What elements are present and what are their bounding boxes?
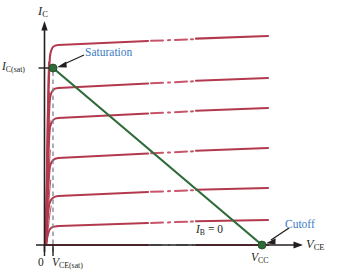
curve-6-solid-right	[196, 36, 268, 39]
curve-4-solid-right	[196, 108, 268, 111]
saturation-annotation: Saturation	[85, 47, 132, 59]
saturation-arrowhead	[57, 61, 67, 67]
ib-zero-annotation: IB = 0	[196, 224, 223, 236]
x-axis-label-sub: CE	[314, 242, 325, 252]
ib-zero-rest: = 0	[205, 223, 223, 235]
curve-2-solid-left	[46, 192, 148, 245]
cutoff-annotation: Cutoff	[285, 219, 315, 231]
curve-1-solid-left	[46, 223, 148, 245]
curve-1-break-dashes	[151, 222, 193, 223]
collector-curves-group	[46, 36, 268, 245]
vcesat-sub: CE(sat)	[59, 261, 83, 270]
cutoff-point-marker	[258, 241, 266, 249]
vcc-tick-label: VCC	[251, 252, 268, 264]
transistor-characteristic-curve-figure: IC VCE IC(sat) 0 VCE(sat) VCC Saturation…	[0, 0, 341, 277]
curve-3-solid-left	[46, 154, 148, 246]
curve-5-break-dashes	[151, 81, 193, 83]
origin-label: 0	[38, 257, 44, 269]
curve-6-highest-ib	[46, 36, 268, 245]
x-axis-label: VCE	[306, 238, 325, 251]
curve-6-break-dashes	[151, 39, 193, 41]
curve-1-lowest-ib	[46, 220, 268, 245]
vcc-sub: CC	[258, 256, 268, 265]
curve-2-break-dashes	[151, 190, 193, 192]
curve-2-solid-right	[196, 188, 268, 190]
x-axis-label-main: V	[306, 237, 314, 251]
y-axis-label: IC	[38, 5, 48, 18]
curve-5-solid-right	[196, 78, 268, 81]
x-axis-arrowhead	[294, 242, 304, 249]
vcesat-main: V	[52, 256, 59, 268]
saturation-point-marker	[49, 64, 57, 72]
characteristic-curves-svg	[0, 0, 341, 277]
curve-3-break-dashes	[151, 151, 193, 153]
y-axis-arrowhead	[41, 21, 47, 31]
y-axis-label-sub: C	[42, 9, 48, 19]
ic-sat-tick-label: IC(sat)	[2, 61, 25, 73]
ib-zero-sub: B	[200, 228, 205, 237]
vcesat-tick-label: VCE(sat)	[52, 257, 83, 269]
curve-2	[46, 188, 268, 245]
curve-6-solid-left	[46, 41, 148, 245]
annotation-arrows-group	[57, 55, 289, 245]
curve-4-break-dashes	[151, 111, 193, 113]
curve-3	[46, 148, 268, 245]
cutoff-arrowhead	[266, 238, 276, 244]
ic-sat-sub: C(sat)	[6, 65, 25, 74]
curve-5-solid-left	[46, 84, 148, 246]
curve-3-solid-right	[196, 148, 268, 151]
vcc-main: V	[251, 251, 258, 263]
